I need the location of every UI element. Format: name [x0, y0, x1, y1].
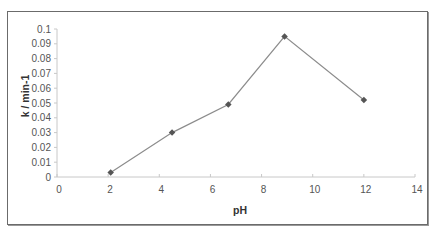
x-tick-label: 14: [411, 184, 423, 195]
x-tick-label: 8: [261, 184, 267, 195]
y-tick-label: 0.1: [37, 24, 51, 35]
x-tick-label: 6: [210, 184, 216, 195]
line-chart: 00.010.020.030.040.050.060.070.080.090.1…: [0, 0, 434, 233]
y-tick-label: 0.06: [32, 83, 52, 94]
x-axis-title: pH: [233, 204, 247, 216]
y-tick-label: 0.01: [32, 157, 52, 168]
y-tick-label: 0.02: [32, 142, 52, 153]
y-tick-label: 0.07: [32, 68, 52, 79]
y-tick-label: 0.08: [32, 53, 52, 64]
y-tick-label: 0: [45, 172, 51, 183]
y-tick-label: 0.04: [32, 112, 52, 123]
x-tick-label: 4: [159, 184, 165, 195]
data-point-marker: [169, 129, 176, 136]
x-tick-label: 10: [309, 184, 321, 195]
y-tick-label: 0.03: [32, 127, 52, 138]
x-tick-label: 2: [107, 184, 113, 195]
data-markers: [107, 33, 367, 176]
y-axis-ticks: 00.010.020.030.040.050.060.070.080.090.1: [32, 24, 57, 183]
y-tick-label: 0.09: [32, 38, 52, 49]
x-tick-label: 12: [360, 184, 372, 195]
series-line: [111, 36, 364, 172]
y-tick-label: 0.05: [32, 98, 52, 109]
x-tick-label: 0: [56, 184, 62, 195]
y-axis-title: k / min-1: [19, 75, 31, 118]
